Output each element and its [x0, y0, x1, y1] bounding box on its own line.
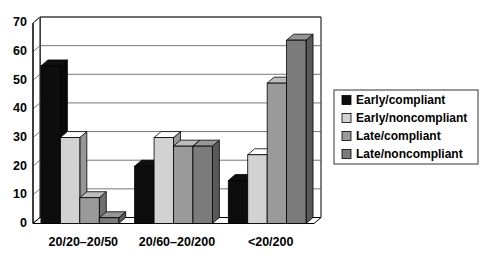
legend-item-label: Early/noncompliant: [356, 111, 467, 125]
bar-front-face: [248, 155, 267, 224]
x-axis-category-label: 20/60–20/200: [139, 235, 216, 249]
plot-left-wall: [33, 17, 40, 224]
y-axis-tick-label: 10: [13, 187, 27, 201]
y-axis-tick-label: 20: [13, 159, 27, 173]
legend-item-label: Early/compliant: [356, 93, 445, 107]
legend-item[interactable]: Late/compliant: [342, 129, 441, 143]
legend-swatch: [342, 114, 351, 123]
legend-item-label: Late/noncompliant: [356, 147, 463, 161]
bar-front-face: [267, 83, 286, 223]
x-axis-category-label: <20/200: [248, 235, 294, 249]
bar-front-face: [41, 66, 60, 224]
chart-canvas: 01020304050607020/20–20/5020/60–20/200<2…: [0, 0, 491, 262]
bar-side-face: [212, 140, 219, 223]
y-axis-tick-label: 50: [13, 73, 27, 87]
legend-item[interactable]: Early/compliant: [342, 93, 445, 107]
legend-swatch: [342, 150, 351, 159]
x-axis-category-label: 20/20–20/50: [49, 235, 119, 249]
legend-swatch: [342, 132, 351, 141]
bar-front-face: [60, 138, 79, 224]
bar-front-face: [135, 166, 154, 223]
legend-swatch: [342, 96, 351, 105]
legend: Early/compliantEarly/noncompliantLate/co…: [334, 90, 478, 164]
y-axis-tick-label: 0: [20, 216, 27, 230]
legend-item[interactable]: Early/noncompliant: [342, 111, 467, 125]
plot-area: 01020304050607020/20–20/5020/60–20/200<2…: [13, 15, 321, 249]
bar: [193, 140, 219, 223]
bar: [287, 34, 313, 223]
bar-front-face: [154, 138, 173, 224]
y-axis-tick-label: 40: [13, 101, 27, 115]
bar-chart: 01020304050607020/20–20/5020/60–20/200<2…: [0, 0, 491, 262]
y-axis-tick-label: 30: [13, 130, 27, 144]
bar-front-face: [80, 198, 99, 224]
bar-front-face: [287, 40, 306, 223]
legend-item-label: Late/compliant: [356, 129, 441, 143]
bar-front-face: [228, 181, 247, 224]
bar-side-face: [306, 34, 313, 223]
y-axis-tick-label: 60: [13, 44, 27, 58]
bar-front-face: [99, 218, 118, 224]
bar-front-face: [174, 146, 193, 223]
y-axis-tick-label: 70: [13, 15, 27, 29]
bar-front-face: [193, 146, 212, 223]
legend-item[interactable]: Late/noncompliant: [342, 147, 463, 161]
x-axis-labels: 20/20–20/5020/60–20/200<20/200: [49, 235, 294, 249]
